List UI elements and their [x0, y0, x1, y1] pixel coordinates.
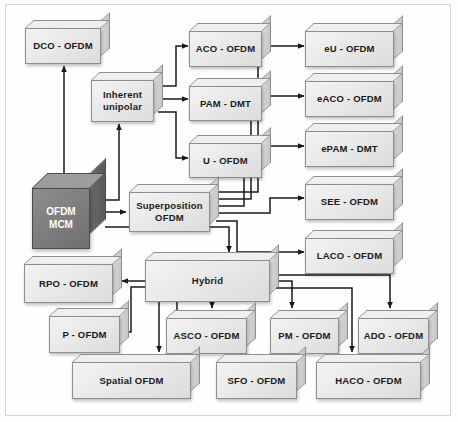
node-label: RPO - OFDM [36, 278, 101, 290]
box-top-face [129, 184, 219, 192]
node-spatial-ofdm[interactable]: Spatial OFDM [72, 354, 200, 399]
box-front-face: U - OFDM [189, 143, 262, 178]
box-side-face [394, 168, 403, 212]
node-asco-ofdm[interactable]: ASCO - OFDM [166, 310, 256, 354]
box-top-face [189, 78, 271, 86]
node-label: DCO - OFDM [30, 40, 96, 52]
box-side-face [339, 302, 348, 346]
box-top-face [305, 230, 403, 238]
box-top-face [145, 252, 279, 260]
box-side-face [394, 115, 403, 159]
box-top-face [216, 354, 306, 362]
box-side-face [262, 127, 271, 170]
box-front-face: HACO - OFDM [316, 362, 421, 399]
box-front-face: ePAM - DMT [305, 131, 394, 167]
node-label: PAM - DMT [197, 98, 254, 110]
node-label: Superposition OFDM [133, 200, 205, 223]
box-front-face: ADO - OFDM [358, 318, 429, 354]
node-label: LACO - OFDM [314, 250, 386, 262]
box-side-face [247, 302, 256, 346]
node-label: eU - OFDM [321, 43, 377, 55]
node-eaco-ofdm[interactable]: eACO - OFDM [305, 73, 403, 117]
node-aco-ofdm[interactable]: ACO - OFDM [189, 23, 271, 67]
node-laco-ofdm[interactable]: LACO - OFDM [305, 230, 403, 274]
node-label: ePAM - DMT [318, 143, 381, 155]
box-front-face: Superposition OFDM [129, 192, 210, 232]
node-pam-dmt[interactable]: PAM - DMT [189, 78, 271, 121]
box-top-face [358, 310, 438, 318]
box-side-face [429, 302, 438, 346]
node-label: OFDM MCM [46, 206, 75, 231]
box-top-face [316, 354, 430, 362]
node-inherent-unipolar[interactable]: Inherent unipolar [91, 72, 163, 122]
cube-side-face [90, 158, 106, 234]
box-front-face: Inherent unipolar [91, 80, 154, 122]
node-haco-ofdm[interactable]: HACO - OFDM [316, 354, 430, 399]
node-superposition-ofdm[interactable]: Superposition OFDM [129, 184, 219, 232]
box-front-face: ACO - OFDM [189, 31, 262, 67]
box-top-face [305, 176, 403, 184]
node-dco-ofdm[interactable]: DCO - OFDM [25, 20, 110, 64]
node-label: HACO - OFDM [332, 375, 405, 387]
box-front-face: eACO - OFDM [305, 81, 394, 117]
box-side-face [394, 15, 403, 59]
node-label: U - OFDM [200, 155, 251, 167]
box-top-face [305, 23, 403, 31]
node-ado-ofdm[interactable]: ADO - OFDM [358, 310, 438, 354]
node-sfo-ofdm[interactable]: SFO - OFDM [216, 354, 306, 399]
box-front-face: SFO - OFDM [216, 362, 297, 399]
node-pm-ofdm[interactable]: PM - OFDM [270, 310, 348, 354]
box-front-face: eU - OFDM [305, 31, 394, 67]
node-label: P - OFDM [59, 329, 109, 341]
node-epam-dmt[interactable]: ePAM - DMT [305, 123, 403, 167]
box-side-face [394, 222, 403, 266]
node-label: eACO - OFDM [314, 93, 385, 105]
box-top-face [305, 123, 403, 131]
node-label: Inherent unipolar [100, 89, 145, 112]
box-side-face [262, 70, 271, 113]
box-top-face [24, 256, 122, 264]
box-front-face: Hybrid [145, 260, 270, 302]
box-front-face: Spatial OFDM [72, 362, 191, 399]
node-label: ASCO - OFDM [170, 330, 242, 342]
box-top-face [189, 23, 271, 31]
box-side-face [120, 300, 129, 345]
node-label: ACO - OFDM [193, 43, 259, 55]
node-ofdm-mcm[interactable]: OFDM MCM [32, 173, 106, 249]
box-front-face: P - OFDM [49, 316, 120, 353]
box-front-face: LACO - OFDM [305, 238, 394, 274]
box-side-face [101, 12, 110, 56]
node-p-ofdm[interactable]: P - OFDM [49, 308, 129, 353]
node-label: SEE - OFDM [318, 196, 381, 208]
node-label: ADO - OFDM [361, 330, 427, 342]
cube-front-face: OFDM MCM [32, 188, 90, 249]
box-top-face [91, 72, 163, 80]
box-top-face [305, 73, 403, 81]
box-front-face: PAM - DMT [189, 86, 262, 121]
box-top-face [25, 20, 110, 28]
box-top-face [166, 310, 256, 318]
box-front-face: ASCO - OFDM [166, 318, 247, 354]
box-side-face [421, 346, 430, 391]
node-see-ofdm[interactable]: SEE - OFDM [305, 176, 403, 220]
box-side-face [297, 346, 306, 391]
box-top-face [270, 310, 348, 318]
box-front-face: DCO - OFDM [25, 28, 101, 64]
box-top-face [72, 354, 200, 362]
box-side-face [262, 15, 271, 59]
node-label: PM - OFDM [275, 330, 333, 342]
box-front-face: RPO - OFDM [24, 264, 113, 303]
box-side-face [394, 65, 403, 109]
node-rpo-ofdm[interactable]: RPO - OFDM [24, 256, 122, 303]
box-top-face [189, 135, 271, 143]
box-side-face [191, 346, 200, 391]
node-label: SFO - OFDM [225, 375, 289, 387]
node-eu-ofdm[interactable]: eU - OFDM [305, 23, 403, 67]
box-front-face: SEE - OFDM [305, 184, 394, 220]
node-label: Spatial OFDM [96, 375, 166, 387]
diagram-canvas: OFDM MCM DCO - OFDM Inherent unipolar AC… [0, 0, 458, 422]
node-label: Hybrid [189, 275, 226, 287]
node-hybrid[interactable]: Hybrid [145, 252, 279, 302]
box-top-face [49, 308, 129, 316]
node-u-ofdm[interactable]: U - OFDM [189, 135, 271, 178]
